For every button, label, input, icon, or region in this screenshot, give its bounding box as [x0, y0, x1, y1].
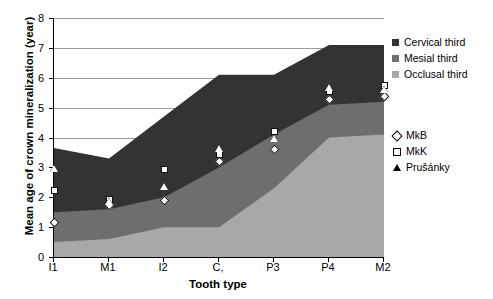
y-axis-tick: 8: [18, 13, 44, 23]
legend-label: MkK: [406, 145, 427, 157]
data-point-prušánky: [50, 165, 58, 172]
legend-bands: Cervical thirdMesial thirdOcclusal third: [392, 34, 468, 82]
plot-area: [53, 18, 384, 258]
legend-label: MkB: [406, 129, 427, 141]
legend-swatch-icon: [392, 39, 399, 46]
legend-label: Cervical third: [404, 36, 465, 48]
x-axis-tick-mark: [273, 257, 274, 262]
legend-sites: MkBMkKPrušánky: [392, 127, 450, 175]
data-point-prušánky: [160, 183, 168, 190]
data-point-prušánky: [215, 145, 223, 152]
x-axis-tick-mark: [108, 257, 109, 262]
legend-label: Occlusal third: [404, 68, 468, 80]
legend-swatch-icon: [392, 55, 399, 62]
x-axis-tick-mark: [383, 257, 384, 262]
x-axis-tick: P4: [306, 261, 350, 273]
legend-item: MkK: [392, 143, 450, 159]
x-axis-tick: I2: [141, 261, 185, 273]
legend-label: Prušánky: [406, 161, 450, 173]
x-axis-tick-mark: [163, 257, 164, 262]
chart-figure: Mean age of crown mineralization (year) …: [0, 0, 493, 299]
x-axis-tick-mark: [328, 257, 329, 262]
x-axis-tick-mark: [218, 257, 219, 262]
data-point-prušánky: [325, 84, 333, 91]
x-axis-tick: M1: [86, 261, 130, 273]
data-point-prušánky: [380, 86, 388, 93]
legend-swatch-icon: [392, 71, 399, 78]
y-axis-tick: 3: [18, 162, 44, 172]
y-axis-tick: 5: [18, 103, 44, 113]
legend-item: Cervical third: [392, 34, 468, 50]
stacked-area-paths: [54, 18, 384, 257]
x-axis-tick: M2: [361, 261, 405, 273]
y-axis-tick: 2: [18, 192, 44, 202]
data-point-mkk: [161, 166, 168, 173]
x-axis-tick: P3: [251, 261, 295, 273]
legend-item: Mesial third: [392, 50, 468, 66]
y-axis-tick: 7: [18, 43, 44, 53]
x-axis-tick: I1: [31, 261, 75, 273]
legend-item: Prušánky: [392, 159, 450, 175]
diamond-marker-icon: [392, 131, 401, 140]
data-point-mkk: [51, 187, 58, 194]
y-axis-tick: 4: [18, 133, 44, 143]
y-axis-tick: 6: [18, 73, 44, 83]
data-point-prušánky: [270, 135, 278, 142]
x-axis-tick: C,: [196, 261, 240, 273]
y-axis-tick: 1: [18, 222, 44, 232]
x-axis-title: Tooth type: [53, 278, 383, 290]
legend-label: Mesial third: [404, 52, 458, 64]
data-point-prušánky: [105, 198, 113, 205]
legend-item: Occlusal third: [392, 66, 468, 82]
triangle-marker-icon: [392, 163, 401, 172]
legend-item: MkB: [392, 127, 450, 143]
square-marker-icon: [392, 147, 401, 156]
x-axis-tick-mark: [53, 257, 54, 262]
